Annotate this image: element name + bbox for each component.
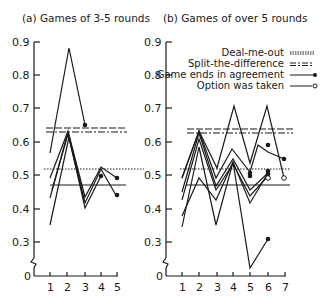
filled-marker-icon	[313, 73, 317, 77]
panel-a-y-labels: 0.9 0.8 0.7 0.6 0.5 0.4 0.3 0	[12, 36, 31, 283]
svg-text:0.6: 0.6	[144, 136, 162, 149]
legend-label-split: Split-the-difference	[188, 58, 284, 69]
svg-text:6: 6	[265, 281, 272, 294]
svg-text:0: 0	[156, 270, 163, 283]
svg-text:2: 2	[196, 281, 203, 294]
panel-a-axis-break	[31, 258, 36, 276]
svg-text:0.4: 0.4	[12, 203, 30, 216]
panel-b-series-6	[182, 147, 268, 268]
svg-text:2: 2	[64, 281, 71, 294]
legend-label-agreement: Game ends in agreement	[157, 69, 284, 80]
legend: Deal-me-out Split-the-difference Game en…	[157, 47, 317, 91]
svg-text:0.3: 0.3	[12, 236, 30, 249]
svg-text:4: 4	[98, 281, 105, 294]
svg-text:0.7: 0.7	[144, 102, 162, 115]
svg-text:0.7: 0.7	[12, 102, 30, 115]
svg-text:3: 3	[214, 281, 221, 294]
svg-text:3: 3	[82, 281, 89, 294]
svg-text:1: 1	[47, 281, 54, 294]
open-marker-icon	[313, 84, 317, 88]
panel-a-title: (a) Games of 3-5 rounds	[22, 12, 150, 24]
svg-text:5: 5	[247, 281, 254, 294]
svg-text:0.4: 0.4	[144, 203, 162, 216]
chart-figure: (a) Games of 3-5 rounds (b) Games of ove…	[0, 0, 334, 304]
svg-text:1: 1	[179, 281, 186, 294]
panel-b-series-5	[182, 162, 268, 216]
panel-b-title: (b) Games of over 5 rounds	[163, 12, 307, 24]
svg-text:5: 5	[114, 281, 121, 294]
svg-text:0.6: 0.6	[12, 136, 30, 149]
panel-b-axis-break	[163, 258, 168, 276]
panel-a-x-labels: 1 2 3 4 5	[47, 281, 121, 294]
svg-text:7: 7	[282, 281, 289, 294]
legend-label-option: Option was taken	[197, 80, 284, 91]
panel-b-x-labels: 1 2 3 4 5 6 7	[179, 281, 289, 294]
svg-text:0.3: 0.3	[144, 236, 162, 249]
panel-a-markers	[83, 123, 120, 198]
svg-text:0.5: 0.5	[12, 169, 30, 182]
legend-label-deal-me-out: Deal-me-out	[222, 47, 285, 58]
svg-text:0.8: 0.8	[12, 69, 30, 82]
svg-text:0.5: 0.5	[144, 169, 162, 182]
svg-text:0.9: 0.9	[12, 36, 30, 49]
svg-text:4: 4	[230, 281, 237, 294]
panel-a	[31, 42, 144, 276]
svg-text:0.9: 0.9	[144, 36, 162, 49]
svg-text:0: 0	[24, 270, 31, 283]
panel-b-series-1	[182, 106, 284, 178]
